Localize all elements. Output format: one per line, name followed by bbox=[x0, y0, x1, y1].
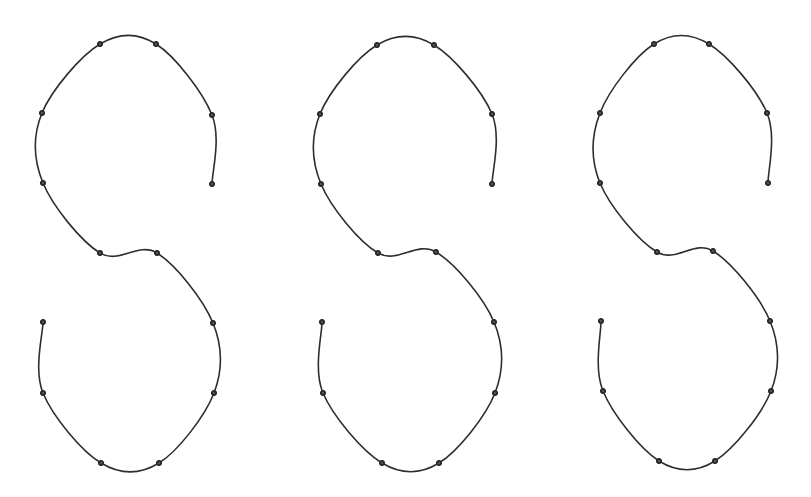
knot-center bbox=[769, 320, 771, 322]
knot-center bbox=[435, 251, 437, 253]
knot-center bbox=[158, 462, 160, 464]
knot-center bbox=[381, 462, 383, 464]
knot-center bbox=[319, 113, 321, 115]
knot-center bbox=[438, 462, 440, 464]
knot-center bbox=[211, 183, 213, 185]
s-curves-figure bbox=[0, 0, 811, 497]
knot-center bbox=[155, 43, 157, 45]
spline-path bbox=[313, 36, 501, 471]
knot-center bbox=[376, 44, 378, 46]
knot-center bbox=[493, 321, 495, 323]
knot-center bbox=[714, 460, 716, 462]
knot-center bbox=[433, 44, 435, 46]
knot-center bbox=[42, 321, 44, 323]
knot-center bbox=[600, 320, 602, 322]
s-curve-3 bbox=[593, 35, 778, 469]
knot-center bbox=[211, 114, 213, 116]
s-curve-1 bbox=[35, 35, 220, 472]
knot-center bbox=[212, 322, 214, 324]
knot-center bbox=[42, 392, 44, 394]
knot-center bbox=[99, 43, 101, 45]
knot-center bbox=[377, 252, 379, 254]
knot-center bbox=[321, 321, 323, 323]
knot-center bbox=[494, 392, 496, 394]
knot-center bbox=[213, 392, 215, 394]
knot-center bbox=[599, 112, 601, 114]
knot-center bbox=[656, 251, 658, 253]
knot-center bbox=[156, 252, 158, 254]
knot-center bbox=[708, 43, 710, 45]
knot-center bbox=[770, 390, 772, 392]
knot-center bbox=[602, 390, 604, 392]
knot-center bbox=[766, 112, 768, 114]
spline-path bbox=[35, 35, 220, 472]
knot-center bbox=[491, 113, 493, 115]
knot-center bbox=[658, 460, 660, 462]
knot-center bbox=[42, 182, 44, 184]
spline-path bbox=[593, 35, 778, 469]
knot-center bbox=[767, 182, 769, 184]
knot-center bbox=[322, 392, 324, 394]
knot-center bbox=[41, 112, 43, 114]
s-curve-2 bbox=[313, 36, 501, 471]
knot-center bbox=[491, 183, 493, 185]
knot-center bbox=[99, 252, 101, 254]
knot-center bbox=[653, 43, 655, 45]
knot-center bbox=[712, 250, 714, 252]
knot-center bbox=[320, 183, 322, 185]
knot-center bbox=[599, 182, 601, 184]
knot-center bbox=[100, 462, 102, 464]
